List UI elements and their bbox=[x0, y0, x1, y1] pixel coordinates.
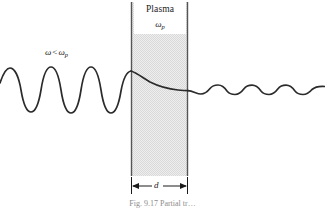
transmitted-wave-curve bbox=[188, 85, 325, 95]
plasma-label-plate: Plasma ωp bbox=[134, 1, 186, 34]
plasma-frequency-symbol: ωp bbox=[155, 18, 165, 33]
dim-arrowhead-left-icon bbox=[132, 183, 139, 189]
incident-wave-curve bbox=[0, 67, 131, 113]
omega-condition-label: ω<ωp bbox=[45, 46, 68, 61]
plasma-slab-figure: Plasma ωp ω<ωp d Fig. 9.17 Partial tr… bbox=[0, 0, 325, 208]
plasma-label-title: Plasma bbox=[146, 3, 174, 15]
dim-arrowhead-right-icon bbox=[180, 183, 187, 189]
figure-caption: Fig. 9.17 Partial tr… bbox=[0, 198, 325, 208]
omega-p-subscript-2: p bbox=[65, 51, 68, 58]
omega-p-subscript: p bbox=[162, 23, 165, 30]
thickness-dimension-label: d bbox=[154, 180, 159, 191]
